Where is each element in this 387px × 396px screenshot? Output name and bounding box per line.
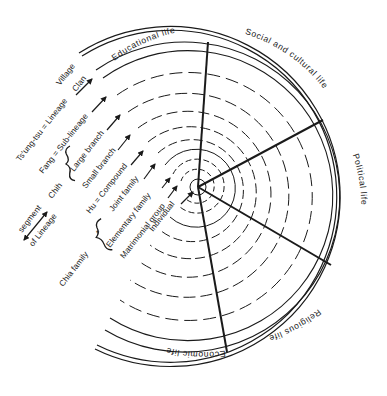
divider-political-religious	[198, 187, 331, 265]
divider-social-political	[198, 120, 323, 187]
sector-label-political: Political life	[351, 152, 370, 205]
sector-label-economic: Economic life	[165, 346, 226, 361]
arrow-joint-family	[144, 164, 155, 179]
arrow-compound	[131, 151, 143, 165]
label-clan: Clan	[70, 74, 88, 93]
arrow-matrimonial-group	[168, 186, 177, 198]
arrow-sub-lineage	[92, 97, 106, 112]
ring-sub-lineage	[128, 93, 289, 297]
label-chia-family: Chia family	[57, 249, 90, 288]
sector-labels: Educational life Social and cultural lif…	[110, 25, 370, 360]
ring-small-branch	[148, 127, 256, 259]
bracket-mark: *	[96, 229, 100, 238]
arrow-elementary-family	[162, 178, 170, 188]
divider-educational-social	[198, 42, 208, 187]
arrow-large-branch	[107, 115, 120, 130]
label-chih: Chih	[46, 181, 64, 200]
social-structure-diagram: Educational life Social and cultural lif…	[0, 0, 387, 396]
sector-dividers	[198, 42, 331, 352]
arrow-small-branch	[118, 135, 130, 150]
ring-large-branch	[138, 111, 271, 277]
